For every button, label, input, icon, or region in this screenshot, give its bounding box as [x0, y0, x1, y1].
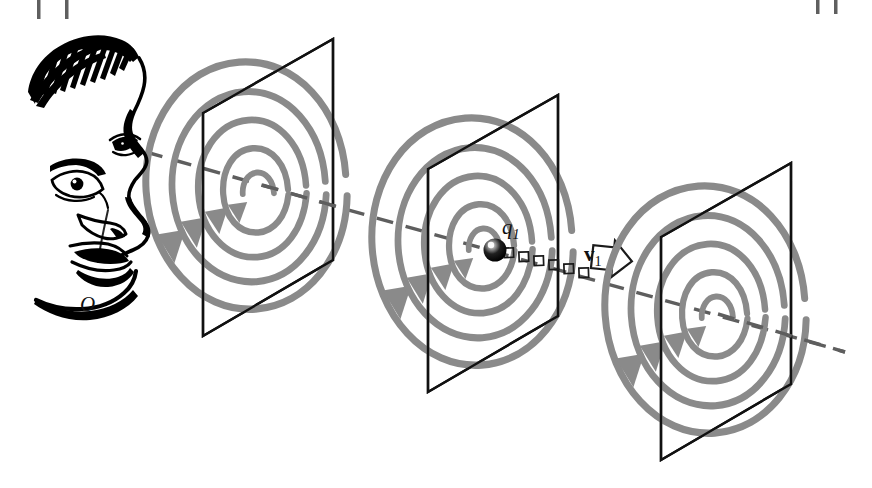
velocity-label-subscript: 1	[595, 253, 602, 269]
observer-face-icon	[28, 35, 150, 320]
figure-canvas	[0, 0, 872, 488]
charge-label-subscript: 1	[513, 226, 520, 242]
hair-hatching	[28, 35, 139, 108]
physics-diagram-figure: O q1 v1	[0, 0, 872, 488]
crop-marks	[37, 0, 838, 19]
plane-1	[138, 39, 354, 336]
left-eye	[50, 159, 108, 208]
velocity-label: v1	[584, 242, 602, 270]
observer-label: O	[80, 292, 95, 317]
charge-label: q1	[502, 215, 520, 243]
plane-2	[364, 95, 580, 392]
plane-2-spiral	[364, 111, 580, 373]
charge-label-symbol: q	[502, 215, 513, 239]
velocity-label-symbol: v	[584, 242, 595, 266]
plane-3-spiral	[597, 179, 813, 441]
